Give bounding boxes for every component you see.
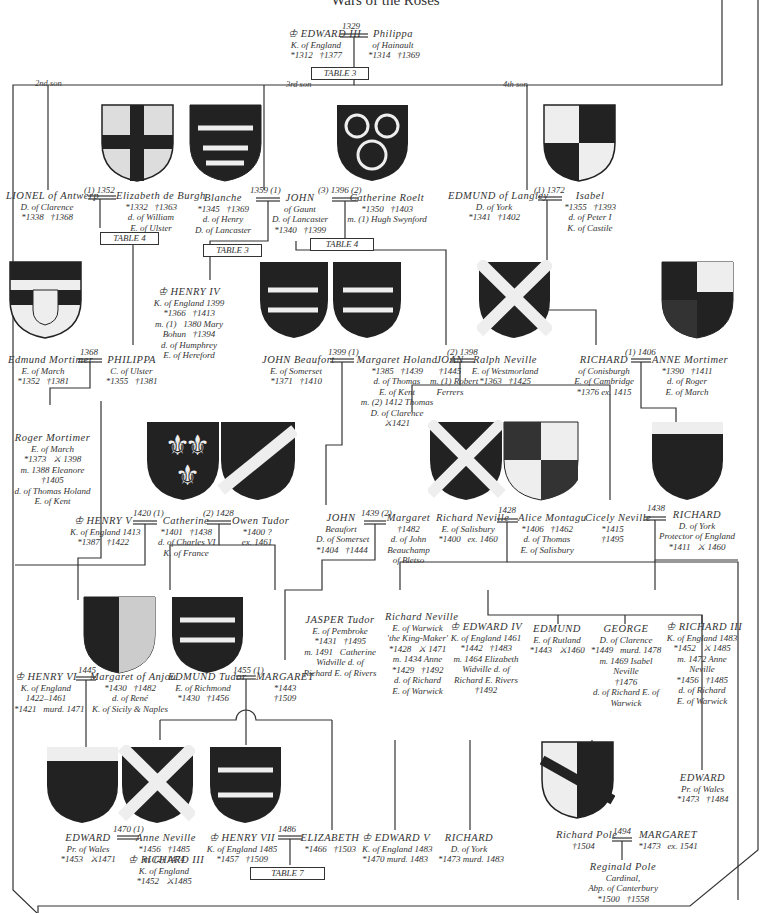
person-margaret-pole[interactable]: MARGARET*1473 ex. 1541 <box>633 830 703 851</box>
coat-of-arms-valois-tudor: ⚜⚜⚜ <box>145 420 297 502</box>
person-richard-shrewsbury[interactable]: RICHARDD. of York *1473 murd. 1483 <box>438 833 500 865</box>
person-henry-vii[interactable]: ♔ HENRY VIIK. of England 1485 *1457 †150… <box>206 833 278 865</box>
coat-of-arms-roelt <box>335 103 410 183</box>
person-elizabeth-of-york[interactable]: ELIZABETH*1466 †1503 <box>300 833 360 854</box>
person-john-of-gaunt[interactable]: JOHNof Gaunt D. of Lancaster *1340 †1399 <box>270 193 330 235</box>
table-4-ref-beaufort[interactable]: TABLE 4 <box>310 238 374 251</box>
coat-of-arms-mortimer <box>8 260 83 340</box>
person-richard-duke-of-york[interactable]: RICHARDD. of York Protector of England *… <box>657 510 737 552</box>
coat-of-arms-neville <box>477 260 552 340</box>
person-henry-vi[interactable]: ♔ HENRY VIK. of England 1422–1461 *1421 … <box>14 672 78 714</box>
coat-of-arms-mortimer-cambridge <box>660 260 735 340</box>
person-roger-mortimer[interactable]: Roger MortimerE. of March *1373 ⚔ 1398 m… <box>10 433 95 507</box>
coat-of-arms-lancaster <box>188 103 263 183</box>
person-george-clarence[interactable]: GEORGED. of Clarence *1449 murd. 1478 m.… <box>590 624 662 708</box>
person-richard-conisburgh[interactable]: RICHARDof Conisburgh E. of Cambridge *13… <box>574 355 634 397</box>
table-7-ref[interactable]: TABLE 7 <box>250 867 325 880</box>
person-cicely-neville[interactable]: Cicely Neville*1415 †1495 <box>585 513 640 545</box>
person-john-beaufort[interactable]: JOHN BeaufortE. of Somerset *1371 †1410 <box>262 355 330 387</box>
person-margaret-beaufort[interactable]: MARGARET*1443 †1509 <box>255 672 315 704</box>
person-edward-iv[interactable]: ♔ EDWARD IVK. of England 1461 *1442 †148… <box>450 622 522 696</box>
person-margaret-holand[interactable]: Margaret Holand*1385 †1439 d. of Thomas … <box>352 355 442 429</box>
person-richard-neville-salisbury[interactable]: Richard NevilleE. of Salisbury *1400 ex.… <box>436 513 500 545</box>
person-margaret-beauchamp[interactable]: Margaret†1482 d. of John Beauchamp of Bl… <box>386 513 431 566</box>
person-edmund-rutland[interactable]: EDMUNDE. of Rutland *1443 ⚔1460 <box>526 624 588 656</box>
person-owen-tudor[interactable]: Owen Tudor*1400 ? ex. 1461 <box>232 516 282 548</box>
person-warwick-kingmaker[interactable]: Richard NevilleE. of Warwick 'the King-M… <box>385 612 450 696</box>
son-label-2nd: 2nd son <box>35 78 62 88</box>
person-blanche[interactable]: Blanche*1345 †1369 d. of Henry D. of Lan… <box>193 193 253 235</box>
coat-of-arms-henry6-anjou <box>82 595 157 675</box>
svg-text:⚜: ⚜ <box>175 460 200 491</box>
coat-of-arms-pole <box>540 740 615 820</box>
person-elizabeth-de-burgh[interactable]: Elizabeth de Burgh*1332 †1363 d. of Will… <box>116 191 186 233</box>
person-edward-v[interactable]: ♔ EDWARD VK. of England 1483 *1470 murd.… <box>362 833 428 865</box>
marriage-date: 1486 <box>278 824 296 834</box>
person-joan[interactable]: JOAN†1445 m. (1) Robert Ferrers <box>430 355 470 397</box>
person-henry-iv[interactable]: ♔ HENRY IVK. of England 1399 *1366 †1413… <box>150 287 228 361</box>
person-richard-iii-spouse[interactable]: ♔ RICHARD IIIK. of England *1452 ⚔1485 <box>128 855 200 887</box>
person-anne-mortimer[interactable]: ANNE Mortimer*1390 †1411 d. of Roger E. … <box>652 355 722 397</box>
coat-of-arms-salisbury-montagu <box>428 420 580 502</box>
person-john-beaufort-somerset[interactable]: JOHNBeaufort D. of Somerset *1404 †1444 <box>316 513 366 555</box>
person-edward-prince-of-wales-1473[interactable]: EDWARDPr. of Wales *1473 †1484 <box>675 773 730 805</box>
svg-text:⚜: ⚜ <box>185 430 210 461</box>
person-margaret-of-anjou[interactable]: Margaret of Anjou*1430 †1482 d. of René … <box>90 672 170 714</box>
person-catherine-valois[interactable]: Catherine*1401 †1438 d. of Charles VI K.… <box>158 516 214 558</box>
person-henry-v[interactable]: ♔ HENRY VK. of England 1413 *1387 †1422 <box>70 516 136 548</box>
coat-of-arms-henry7 <box>208 745 283 825</box>
person-reginald-pole[interactable]: Reginald PoleCardinal, Abp. of Canterbur… <box>585 862 661 904</box>
coat-of-arms-tudor-richmond <box>170 595 245 675</box>
person-richard-pole[interactable]: Richard Pole†1504 <box>556 830 611 851</box>
person-lionel[interactable]: LIONEL of AntwerpD. of Clarence *1338 †1… <box>6 191 88 223</box>
person-jasper-tudor[interactable]: JASPER TudorE. of Pembroke *1431 †1495 m… <box>300 615 380 678</box>
coat-of-arms-edward-prince-neville <box>45 745 195 825</box>
person-richard-iii[interactable]: ♔ RICHARD IIIK. of England 1483 *1452 ⚔ … <box>666 622 738 706</box>
person-ralph-neville[interactable]: Ralph NevilleE. of Westmorland *1363 †14… <box>470 355 540 387</box>
coat-of-arms-clarence <box>100 103 175 183</box>
coat-of-arms-york-castile <box>542 103 617 183</box>
person-edmund-mortimer[interactable]: Edmund MortimerE. of March *1352 †1381 <box>8 355 78 387</box>
coat-of-arms-beaufort-holand <box>258 260 403 340</box>
son-label-4th: 4th son <box>503 79 528 89</box>
table-4-ref-lionel[interactable]: TABLE 4 <box>100 232 159 245</box>
son-label-3rd: 3rd son <box>286 79 311 89</box>
person-edward-prince-of-wales-1453[interactable]: EDWARDPr. of Wales *1453 ⚔1471 <box>60 833 116 865</box>
person-philippa[interactable]: Philippaof Hainault *1314 †1369 <box>368 29 418 61</box>
person-philippa-ulster[interactable]: PHILIPPAC. of Ulster *1355 †1381 <box>104 355 159 387</box>
person-edmund-tudor[interactable]: EDMUND TudorE. of Richmond *1430 †1456 <box>168 672 238 704</box>
table-3-ref-henry4[interactable]: TABLE 3 <box>203 244 262 257</box>
table-3-ref-top[interactable]: TABLE 3 <box>311 67 369 80</box>
person-catherine-roelt[interactable]: Catherine Roelt*1350 †1403 m. (1) Hugh S… <box>344 193 430 225</box>
person-isabel[interactable]: Isabel*1355 †1393 d. of Peter I K. of Ca… <box>560 191 620 233</box>
coat-of-arms-york <box>650 420 725 502</box>
person-edmund-of-langley[interactable]: EDMUND of LangleyD. of York *1341 †1402 <box>448 191 540 223</box>
person-alice-montagu[interactable]: Alice Montagu*1406 †1462 d. of Thomas E.… <box>518 513 576 555</box>
person-edward-iii[interactable]: ♔ EDWARD IIIK. of England *1312 †1377 <box>288 29 344 61</box>
